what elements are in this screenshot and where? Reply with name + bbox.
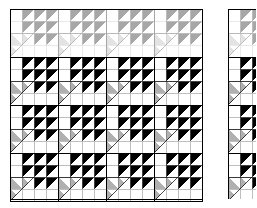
white-square-patch: [70, 93, 82, 105]
quilt-block: [228, 57, 257, 105]
white-square-patch: [46, 45, 58, 57]
white-square-patch: [58, 9, 70, 21]
white-square-patch: [22, 141, 34, 153]
block-row: [10, 57, 202, 105]
white-square-patch: [22, 93, 34, 105]
white-square-patch: [106, 57, 118, 69]
white-square-patch: [34, 141, 46, 153]
white-square-patch: [34, 45, 46, 57]
white-square-patch: [142, 45, 154, 57]
quilt-block: [58, 105, 106, 153]
block-row-faded: [228, 9, 257, 57]
white-square-patch: [58, 21, 70, 33]
white-square-patch: [228, 69, 240, 81]
white-square-patch: [106, 105, 118, 117]
block-row: [228, 153, 257, 201]
quilt-block: [10, 153, 58, 201]
quilt-block: [58, 9, 106, 57]
white-square-patch: [82, 45, 94, 57]
white-square-patch: [58, 117, 70, 129]
white-square-patch: [178, 45, 190, 57]
quilt-diagram: [0, 0, 257, 208]
white-square-patch: [22, 45, 34, 57]
white-square-patch: [166, 93, 178, 105]
quilt-block: [154, 9, 202, 57]
white-square-patch: [228, 165, 240, 177]
block-row: [10, 153, 202, 201]
white-square-patch: [154, 9, 166, 21]
white-square-patch: [58, 57, 70, 69]
quilt-block: [154, 57, 202, 105]
quilt-canvas: [0, 0, 257, 208]
white-square-patch: [106, 165, 118, 177]
white-square-patch: [46, 141, 58, 153]
quilt-block: [10, 9, 58, 57]
white-square-patch: [154, 153, 166, 165]
quilt-block: [228, 9, 257, 57]
white-square-patch: [34, 93, 46, 105]
quilt-block: [10, 57, 58, 105]
white-square-patch: [10, 153, 22, 165]
quilt-block: [58, 57, 106, 105]
white-square-patch: [10, 105, 22, 117]
white-square-patch: [130, 45, 142, 57]
white-square-patch: [228, 21, 240, 33]
quilt-block: [154, 105, 202, 153]
white-square-patch: [142, 93, 154, 105]
white-square-patch: [10, 117, 22, 129]
white-square-patch: [190, 93, 202, 105]
white-square-patch: [240, 93, 252, 105]
white-square-patch: [228, 57, 240, 69]
block-row: [228, 105, 257, 153]
white-square-patch: [10, 21, 22, 33]
white-square-patch: [94, 45, 106, 57]
white-square-patch: [82, 141, 94, 153]
block-row-faded: [10, 9, 202, 57]
white-square-patch: [94, 141, 106, 153]
white-square-patch: [154, 21, 166, 33]
white-square-patch: [106, 9, 118, 21]
block-row: [228, 57, 257, 105]
white-square-patch: [228, 105, 240, 117]
quilt-block: [228, 105, 257, 153]
white-square-patch: [228, 9, 240, 21]
quilt-block: [10, 105, 58, 153]
white-square-patch: [240, 45, 252, 57]
quilt-block: [58, 153, 106, 201]
white-square-patch: [106, 153, 118, 165]
white-square-patch: [70, 45, 82, 57]
white-square-patch: [240, 141, 252, 153]
white-square-patch: [190, 45, 202, 57]
white-square-patch: [154, 57, 166, 69]
white-square-patch: [46, 93, 58, 105]
white-square-patch: [94, 93, 106, 105]
cropped-quilt-strip: [228, 9, 257, 201]
white-square-patch: [118, 45, 130, 57]
main-quilt-grid: [10, 9, 202, 201]
white-square-patch: [166, 141, 178, 153]
white-square-patch: [118, 141, 130, 153]
white-square-patch: [130, 93, 142, 105]
white-square-patch: [228, 117, 240, 129]
quilt-block: [228, 153, 257, 201]
block-row: [10, 105, 202, 153]
white-square-patch: [106, 21, 118, 33]
white-square-patch: [58, 105, 70, 117]
white-square-patch: [154, 165, 166, 177]
white-square-patch: [82, 93, 94, 105]
white-square-patch: [10, 57, 22, 69]
white-square-patch: [70, 141, 82, 153]
white-square-patch: [58, 165, 70, 177]
white-square-patch: [10, 165, 22, 177]
quilt-block: [154, 153, 202, 201]
white-square-patch: [154, 69, 166, 81]
quilt-block: [106, 9, 154, 57]
white-square-patch: [142, 141, 154, 153]
quilt-block: [106, 153, 154, 201]
white-square-patch: [154, 105, 166, 117]
white-square-patch: [10, 9, 22, 21]
white-square-patch: [190, 141, 202, 153]
white-square-patch: [106, 117, 118, 129]
white-square-patch: [178, 141, 190, 153]
quilt-block: [106, 105, 154, 153]
